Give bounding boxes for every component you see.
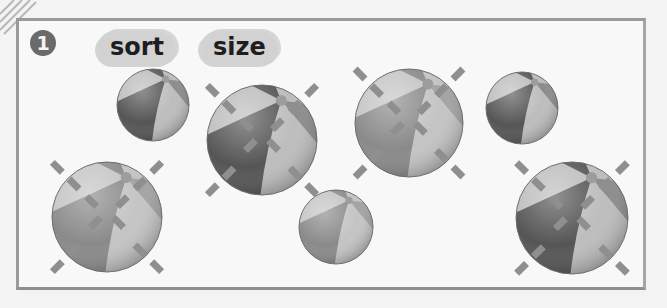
ball-valve — [276, 95, 287, 106]
ball-shading — [207, 85, 317, 195]
beach-ball-large — [202, 74, 329, 206]
beach-ball-large — [350, 58, 474, 188]
beach-ball-small — [482, 65, 565, 151]
ball-shading — [516, 162, 628, 274]
cross-mark — [149, 160, 164, 175]
ball-valve — [121, 172, 132, 183]
cross-mark — [451, 67, 466, 82]
cross-mark — [50, 160, 65, 175]
ball-valve — [531, 78, 538, 85]
cross-mark — [353, 67, 368, 82]
cross-mark — [514, 261, 529, 276]
beach-balls-area — [0, 0, 667, 308]
cross-mark — [50, 259, 65, 274]
cross-mark — [353, 165, 368, 180]
beach-ball-small — [113, 62, 196, 148]
cross-mark — [205, 182, 220, 197]
ball-shading — [52, 162, 162, 272]
ball-valve — [345, 197, 352, 204]
cross-mark — [615, 160, 630, 175]
ball-valve — [586, 172, 597, 183]
cross-mark — [451, 165, 466, 180]
beach-ball-large — [510, 151, 639, 285]
ball-valve — [423, 79, 434, 90]
cross-mark — [304, 83, 319, 98]
cross-mark — [615, 261, 630, 276]
beach-ball-small — [295, 183, 380, 272]
cross-mark — [149, 259, 164, 274]
cross-mark — [205, 83, 220, 98]
ball-valve — [162, 75, 169, 82]
ball-shading — [355, 69, 463, 177]
beach-ball-large — [47, 151, 174, 283]
cross-mark — [514, 160, 529, 175]
